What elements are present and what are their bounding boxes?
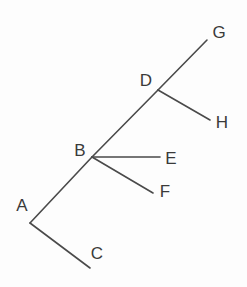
- edge-a-c: [30, 223, 90, 268]
- tree-diagram: ABCDEFGH: [0, 0, 247, 287]
- edge-d-h: [158, 90, 210, 120]
- node-label-h: H: [216, 114, 228, 131]
- node-label-c: C: [91, 245, 103, 262]
- node-label-g: G: [212, 24, 225, 41]
- edges-layer: [0, 0, 247, 287]
- node-label-d: D: [140, 72, 152, 89]
- node-label-b: B: [74, 142, 85, 159]
- node-label-a: A: [16, 197, 27, 214]
- edge-d-g: [158, 40, 207, 90]
- edge-b-f: [92, 157, 153, 193]
- edge-b-d: [92, 90, 158, 157]
- node-label-f: F: [160, 183, 170, 200]
- edge-a-b: [30, 157, 92, 223]
- node-label-e: E: [165, 150, 176, 167]
